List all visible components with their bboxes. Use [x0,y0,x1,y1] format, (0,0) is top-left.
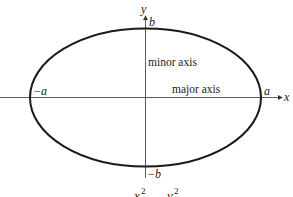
vertex-right-label: a [264,84,270,98]
y-axis-label: y [140,2,147,16]
equation-x-term: x [133,188,140,197]
ellipse-diagram: y x b −b −a a minor axis major axis x 2 … [0,0,293,197]
major-axis-label: major axis [172,83,221,96]
equation-fragment: x 2 y 2 [133,186,179,197]
equation-y-exp: 2 [174,186,179,196]
vertex-top-label: b [149,15,155,29]
vertex-left-label: −a [33,84,47,98]
x-axis-label: x [283,90,290,104]
vertex-bottom-label: −b [147,167,161,181]
minor-axis-label: minor axis [148,56,197,68]
equation-y-term: y [165,188,173,197]
equation-x-exp: 2 [141,186,146,196]
